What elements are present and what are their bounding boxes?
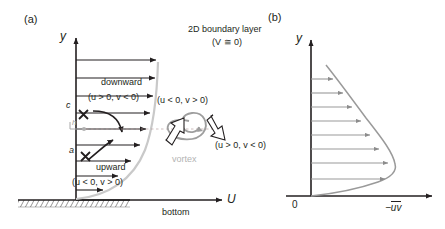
downward-label: downward [101, 78, 142, 87]
reynolds-stress-curve [311, 65, 395, 196]
quadrant-upper-right-label: (u < 0, v > 0) [157, 96, 208, 105]
upward-quadrant-label: (u < 0, v > 0) [72, 178, 123, 187]
upward-label: upward [96, 163, 126, 172]
panel-b-origin-label: 0 [292, 200, 298, 210]
panel-b-axes [286, 40, 432, 196]
panel-a-tag: (a) [24, 14, 37, 25]
quadrant-lower-right-label: (u > 0, v < 0) [215, 141, 266, 150]
event-label-c: c [66, 101, 71, 110]
panel-b-tag: (b) [268, 12, 281, 23]
sweep-block-arrow [207, 115, 225, 140]
uv-overbar: uv [391, 203, 402, 213]
upward-ejection-arrow [88, 140, 113, 160]
sweep-event-marker [79, 110, 88, 119]
panel-b-y-axis-label: y [296, 32, 302, 44]
figure-canvas [0, 0, 445, 229]
panel-a-y-axis-label: y [60, 30, 66, 42]
bottom-wall-label: bottom [162, 208, 190, 217]
height-marker-label: h [72, 119, 76, 127]
event-label-a: a [69, 146, 74, 155]
panel-a-x-axis-label: U [227, 193, 236, 205]
downward-quadrant-label: (u > 0, v < 0) [88, 93, 139, 102]
wall-hatching [18, 200, 130, 207]
vortex-label: vortex [172, 155, 197, 164]
figure-root: (a) (b) y U 2D boundary layer (V ≅ 0) do… [0, 0, 445, 229]
reynolds-stress-arrows [311, 79, 388, 179]
figure-title-line1: 2D boundary layer [188, 25, 262, 34]
figure-title-line2: (V ≅ 0) [212, 38, 242, 47]
panel-b-x-axis-label: −uv [385, 203, 401, 213]
